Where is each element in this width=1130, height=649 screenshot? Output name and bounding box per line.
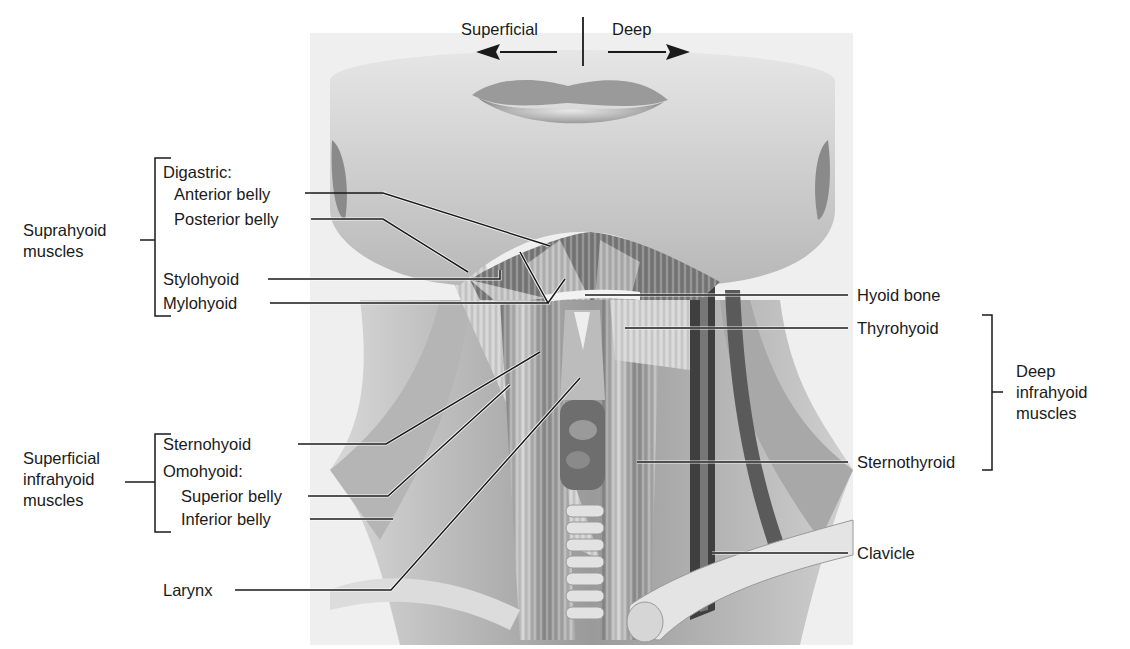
label-digastric: Digastric: xyxy=(163,162,232,182)
label-larynx: Larynx xyxy=(163,580,213,600)
group-label-line: muscles xyxy=(23,241,106,262)
label-omohyoid: Omohyoid: xyxy=(163,461,243,481)
neck-muscles-illustration xyxy=(0,0,1130,649)
label-clavicle: Clavicle xyxy=(857,543,915,563)
group-label-line: infrahyoid xyxy=(1016,382,1088,403)
label-mylohyoid: Mylohyoid xyxy=(163,293,237,313)
label-stylohyoid: Stylohyoid xyxy=(163,269,239,289)
label-sternothyroid: Sternothyroid xyxy=(857,452,955,472)
label-superficial: Superficial xyxy=(461,19,538,39)
group-label-line: Suprahyoid xyxy=(23,220,106,241)
group-label-line: Superficial xyxy=(23,448,100,469)
group-label-line: infrahyoid xyxy=(23,469,100,490)
tracheal-rings xyxy=(566,505,604,619)
label-sternohyoid: Sternohyoid xyxy=(163,434,251,454)
label-posterior-belly: Posterior belly xyxy=(174,209,279,229)
group-superficial-infrahyoid-muscles: Superficial infrahyoid muscles xyxy=(23,448,100,511)
label-thyrohyoid: Thyrohyoid xyxy=(857,318,939,338)
group-label-line: muscles xyxy=(1016,403,1088,424)
label-deep: Deep xyxy=(612,19,651,39)
group-label-line: Deep xyxy=(1016,361,1088,382)
group-deep-infrahyoid-muscles: Deep infrahyoid muscles xyxy=(1016,361,1088,424)
label-hyoid-bone: Hyoid bone xyxy=(857,285,940,305)
anatomy-figure: Superficial Deep Suprahyoid muscles Diga… xyxy=(0,0,1130,649)
bracket-deep-infrahyoid xyxy=(982,315,992,470)
label-inferior-belly: Inferior belly xyxy=(181,509,271,529)
group-suprahyoid-muscles: Suprahyoid muscles xyxy=(23,220,106,262)
label-anterior-belly: Anterior belly xyxy=(174,184,270,204)
group-label-line: muscles xyxy=(23,490,100,511)
label-superior-belly: Superior belly xyxy=(181,486,282,506)
